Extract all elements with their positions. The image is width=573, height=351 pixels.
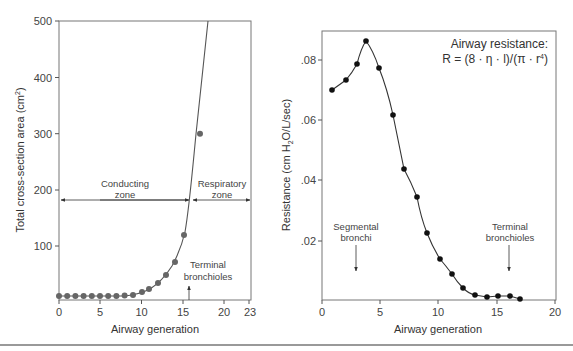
left-xtick-23: 23 — [244, 306, 256, 318]
left-xtick-5: 5 — [97, 306, 103, 318]
left-x-axis — [59, 300, 249, 304]
right-ytick-02: .02 — [301, 235, 316, 247]
right-xtick-10: 10 — [432, 306, 444, 318]
left-y-axis — [55, 21, 59, 246]
left-ytick-400: 400 — [34, 72, 52, 84]
right-ytick-08: .08 — [301, 54, 316, 66]
right-resistance-curve — [332, 41, 520, 299]
figure-canvas: 500 400 300 200 100 0 5 10 15 20 23 Airw… — [0, 0, 573, 351]
left-ytick-200: 200 — [34, 184, 52, 196]
conducting-zone-label-2: zone — [115, 189, 136, 200]
left-ytick-500: 500 — [34, 15, 52, 27]
right-ytick-04: .04 — [301, 174, 316, 186]
formula-text: R = (8 · η · l)/(π · r4) — [442, 52, 548, 66]
left-xtick-10: 10 — [135, 306, 147, 318]
respiratory-zone-label-2: zone — [212, 189, 233, 200]
left-terminal-label-1: Terminal — [190, 259, 226, 270]
formula-title: Airway resistance: — [451, 37, 548, 51]
segmental-bronchi-label-2: bronchi — [340, 232, 371, 243]
left-area-curve — [59, 21, 208, 296]
right-data-points — [329, 38, 523, 302]
left-ytick-300: 300 — [34, 128, 52, 140]
left-data-points — [56, 131, 203, 299]
right-ytick-06: .06 — [301, 114, 316, 126]
right-terminal-label-1: Terminal — [492, 221, 528, 232]
left-x-axis-label: Airway generation — [111, 323, 199, 335]
left-chart: 500 400 300 200 100 0 5 10 15 20 23 Airw… — [14, 15, 256, 335]
respiratory-zone-label-1: Respiratory — [198, 178, 247, 189]
right-xtick-15: 15 — [491, 306, 503, 318]
right-chart: .08 .06 .04 .02 0 5 10 15 20 Airway gene… — [280, 31, 561, 335]
right-xtick-0: 0 — [319, 306, 325, 318]
left-xtick-20: 20 — [218, 306, 230, 318]
right-x-axis-label: Airway generation — [394, 323, 482, 335]
segmental-bronchi-label-1: Segmental — [333, 221, 378, 232]
right-y-axis — [318, 60, 322, 241]
left-terminal-label-2: bronchioles — [184, 271, 233, 282]
right-y-axis-label: Resistance (cm H2O/L/sec) — [280, 99, 294, 231]
right-xtick-20: 20 — [549, 306, 561, 318]
left-xtick-0: 0 — [56, 306, 62, 318]
right-terminal-label-2: bronchioles — [486, 232, 535, 243]
left-xtick-15: 15 — [177, 306, 189, 318]
left-ytick-100: 100 — [34, 240, 52, 252]
left-y-axis-label: Total cross-section area (cm2) — [14, 87, 26, 232]
right-xtick-5: 5 — [377, 306, 383, 318]
conducting-zone-label-1: Conducting — [101, 178, 149, 189]
